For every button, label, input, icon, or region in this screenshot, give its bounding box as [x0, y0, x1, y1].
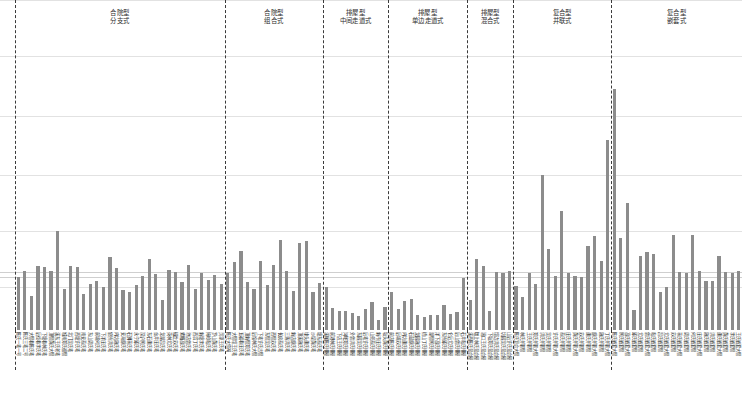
- bar[interactable]: [161, 300, 164, 330]
- bar[interactable]: [514, 286, 517, 330]
- bar[interactable]: [364, 309, 367, 330]
- bar[interactable]: [36, 266, 39, 330]
- bar[interactable]: [678, 272, 681, 330]
- bar[interactable]: [606, 140, 609, 330]
- bar[interactable]: [672, 235, 675, 330]
- bar[interactable]: [213, 275, 216, 330]
- bar[interactable]: [115, 268, 118, 330]
- bar[interactable]: [442, 305, 445, 330]
- bar[interactable]: [717, 256, 720, 330]
- bar[interactable]: [619, 238, 622, 330]
- bar[interactable]: [102, 287, 105, 330]
- bar[interactable]: [56, 231, 59, 330]
- bar[interactable]: [174, 272, 177, 330]
- bar[interactable]: [429, 315, 432, 330]
- bar[interactable]: [632, 310, 635, 330]
- bar[interactable]: [167, 270, 170, 330]
- bar[interactable]: [220, 284, 223, 330]
- bar[interactable]: [344, 311, 347, 330]
- bar[interactable]: [141, 276, 144, 330]
- bar[interactable]: [659, 292, 662, 330]
- bar[interactable]: [528, 273, 531, 330]
- bar[interactable]: [121, 290, 124, 330]
- bar[interactable]: [580, 277, 583, 330]
- bar[interactable]: [17, 277, 20, 330]
- bar[interactable]: [266, 285, 269, 330]
- bar[interactable]: [521, 297, 524, 330]
- bar[interactable]: [311, 292, 314, 330]
- bar[interactable]: [436, 315, 439, 330]
- bar[interactable]: [272, 265, 275, 330]
- bar[interactable]: [534, 284, 537, 330]
- bar[interactable]: [279, 240, 282, 330]
- bar[interactable]: [30, 296, 33, 330]
- bar[interactable]: [239, 251, 242, 330]
- bar[interactable]: [259, 261, 262, 330]
- bar[interactable]: [586, 246, 589, 330]
- bar[interactable]: [370, 302, 373, 330]
- bar[interactable]: [711, 281, 714, 331]
- bar[interactable]: [698, 271, 701, 330]
- bar[interactable]: [285, 271, 288, 330]
- bar[interactable]: [252, 289, 255, 330]
- bar[interactable]: [226, 273, 229, 330]
- bar[interactable]: [724, 272, 727, 330]
- bar[interactable]: [639, 256, 642, 330]
- bar[interactable]: [554, 276, 557, 330]
- bar[interactable]: [49, 271, 52, 330]
- bar[interactable]: [737, 271, 740, 330]
- bar[interactable]: [541, 175, 544, 330]
- bar[interactable]: [390, 292, 393, 330]
- bar[interactable]: [305, 241, 308, 330]
- bar[interactable]: [685, 273, 688, 330]
- bar[interactable]: [560, 211, 563, 330]
- bar[interactable]: [187, 265, 190, 330]
- bar[interactable]: [180, 282, 183, 330]
- bar[interactable]: [95, 281, 98, 330]
- bar[interactable]: [135, 285, 138, 330]
- bar[interactable]: [43, 267, 46, 330]
- bar[interactable]: [194, 289, 197, 330]
- bar[interactable]: [207, 280, 210, 330]
- bar[interactable]: [501, 273, 504, 330]
- bar[interactable]: [397, 309, 400, 330]
- bar[interactable]: [547, 249, 550, 330]
- bar[interactable]: [298, 243, 301, 330]
- bar[interactable]: [338, 311, 341, 330]
- bar[interactable]: [488, 311, 491, 330]
- bar[interactable]: [200, 273, 203, 330]
- bar[interactable]: [76, 267, 79, 330]
- bar[interactable]: [469, 300, 472, 330]
- bar[interactable]: [325, 287, 328, 330]
- bar[interactable]: [600, 261, 603, 330]
- bar[interactable]: [704, 281, 707, 330]
- bar[interactable]: [462, 278, 465, 330]
- bar[interactable]: [593, 236, 596, 330]
- bar[interactable]: [82, 294, 85, 330]
- bar[interactable]: [69, 266, 72, 330]
- bar[interactable]: [573, 276, 576, 330]
- bar[interactable]: [731, 273, 734, 330]
- bar[interactable]: [423, 317, 426, 330]
- bar[interactable]: [128, 292, 131, 330]
- bar[interactable]: [154, 274, 157, 330]
- bar[interactable]: [89, 284, 92, 330]
- bar[interactable]: [246, 282, 249, 330]
- bar[interactable]: [233, 262, 236, 330]
- bar[interactable]: [410, 299, 413, 330]
- bar[interactable]: [455, 312, 458, 330]
- bar[interactable]: [383, 307, 386, 330]
- bar[interactable]: [63, 289, 66, 330]
- bar[interactable]: [23, 271, 26, 330]
- bar[interactable]: [691, 235, 694, 330]
- bar[interactable]: [377, 320, 380, 330]
- bar[interactable]: [449, 314, 452, 330]
- bar[interactable]: [292, 291, 295, 330]
- bar[interactable]: [613, 89, 616, 330]
- bar[interactable]: [108, 257, 111, 330]
- bar[interactable]: [148, 259, 151, 330]
- bar[interactable]: [318, 283, 321, 330]
- bar[interactable]: [495, 272, 498, 330]
- bar[interactable]: [665, 287, 668, 330]
- bar[interactable]: [403, 301, 406, 330]
